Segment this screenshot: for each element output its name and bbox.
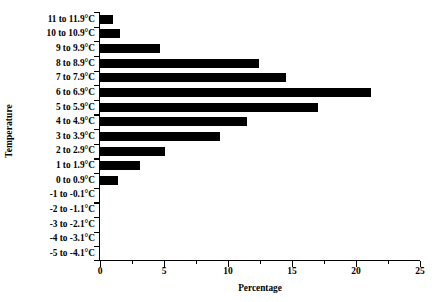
x-axis-tick-labels: 0510152025 <box>100 267 420 281</box>
y-axis-tick-label: 11 to 11.9°C <box>16 12 98 27</box>
bar <box>100 88 371 97</box>
y-axis-tick-label: 2 to 2.9°C <box>16 144 98 159</box>
x-axis-tick-label: 20 <box>351 267 361 277</box>
y-axis-tick-label: 8 to 8.9°C <box>16 56 98 71</box>
x-axis-tick-minor <box>132 261 133 264</box>
bar-row <box>100 217 420 232</box>
x-axis-tick-label: 25 <box>415 267 425 277</box>
bar-row <box>100 114 420 129</box>
bar-row <box>100 173 420 188</box>
y-axis-tick-label: -5 to -4.1°C <box>16 246 98 261</box>
y-axis-tick-label: -3 to -2.1°C <box>16 217 98 232</box>
y-axis-tick-label: 6 to 6.9°C <box>16 85 98 100</box>
y-axis-tick-labels: 11 to 11.9°C10 to 10.9°C9 to 9.9°C8 to 8… <box>16 12 98 261</box>
y-axis-tick-label: 9 to 9.9°C <box>16 41 98 56</box>
bar <box>100 103 318 112</box>
bar-row <box>100 56 420 71</box>
y-axis-tick-label: 5 to 5.9°C <box>16 100 98 115</box>
bar <box>100 15 113 24</box>
x-axis-title: Percentage <box>100 283 420 293</box>
y-axis-tick-label: 10 to 10.9°C <box>16 27 98 42</box>
bar-row <box>100 144 420 159</box>
bar <box>100 132 220 141</box>
bar <box>100 29 120 38</box>
bar <box>100 161 140 170</box>
bar-row <box>100 232 420 247</box>
bar-row <box>100 27 420 42</box>
y-axis-tick-label: -2 to -1.1°C <box>16 202 98 217</box>
bar-row <box>100 71 420 86</box>
x-axis-tick-minor <box>388 261 389 264</box>
bar-chart: Temperature 11 to 11.9°C10 to 10.9°C9 to… <box>0 0 447 302</box>
plot-area <box>100 12 420 261</box>
x-axis-tick-minor <box>324 261 325 264</box>
bar <box>100 59 259 68</box>
y-axis-tick-label: -1 to -0.1°C <box>16 188 98 203</box>
bar <box>100 44 160 53</box>
bar <box>100 147 165 156</box>
x-axis-tick-label: 5 <box>162 267 167 277</box>
x-axis-tick-minor <box>260 261 261 264</box>
x-axis-tick-label: 15 <box>287 267 297 277</box>
x-axis-tick-minor <box>196 261 197 264</box>
x-axis-tick-label: 0 <box>98 267 103 277</box>
bar <box>100 176 118 185</box>
bar-row <box>100 41 420 56</box>
y-axis-title-text: Temperature <box>4 104 14 158</box>
bar-row <box>100 202 420 217</box>
bar-row <box>100 246 420 261</box>
bar-row <box>100 85 420 100</box>
y-axis-tick-label: -4 to -3.1°C <box>16 232 98 247</box>
y-axis-tick-label: 3 to 3.9°C <box>16 129 98 144</box>
bar <box>100 117 247 126</box>
y-axis-tick-label: 1 to 1.9°C <box>16 158 98 173</box>
bar-row <box>100 188 420 203</box>
x-axis-tick-label: 10 <box>223 267 233 277</box>
bar-row <box>100 129 420 144</box>
bar-row <box>100 100 420 115</box>
bar-row <box>100 158 420 173</box>
bar <box>100 73 286 82</box>
bar-series <box>100 12 420 261</box>
y-axis-tick-label: 0 to 0.9°C <box>16 173 98 188</box>
y-axis-tick-label: 4 to 4.9°C <box>16 114 98 129</box>
bar-row <box>100 12 420 27</box>
y-axis-tick-label: 7 to 7.9°C <box>16 71 98 86</box>
